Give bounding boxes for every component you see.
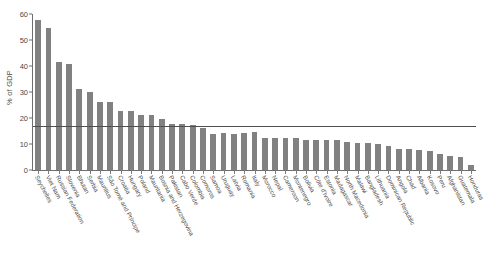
y-tick-label: 60: [20, 10, 28, 19]
bar: [344, 142, 350, 170]
plot-area: [33, 14, 476, 170]
bar: [303, 140, 309, 170]
bar: [313, 140, 319, 170]
bar: [46, 28, 52, 170]
bar: [138, 115, 144, 170]
bar: [375, 144, 381, 170]
bar: [35, 20, 41, 170]
x-axis-category-labels: SeychellesViet NamRussian FederationSlov…: [33, 174, 480, 253]
bar: [149, 115, 155, 170]
bar-series: [33, 14, 476, 170]
bar: [416, 150, 422, 170]
bar: [128, 111, 134, 170]
y-tick-label: 0: [24, 166, 28, 175]
bar: [169, 124, 175, 170]
bar: [324, 140, 330, 170]
bar: [107, 102, 113, 170]
bar: [179, 124, 185, 170]
bar: [396, 149, 402, 170]
bar: [66, 64, 72, 170]
bar: [334, 140, 340, 170]
reference-line: [33, 126, 476, 127]
y-tick-label: 30: [20, 88, 28, 97]
bar: [437, 154, 443, 170]
bar: [190, 125, 196, 171]
bar: [406, 149, 412, 170]
bar: [221, 133, 227, 170]
bar: [210, 134, 216, 170]
bar: [262, 138, 268, 170]
bar: [293, 138, 299, 171]
bar: [200, 128, 206, 170]
bar: [272, 138, 278, 170]
bar: [458, 157, 464, 170]
bar: [447, 156, 453, 170]
y-tick-label: 20: [20, 114, 28, 123]
y-axis-label-text: % of GDP: [5, 70, 14, 105]
bar: [241, 133, 247, 170]
bar: [283, 138, 289, 170]
bar: [118, 111, 124, 170]
bar: [355, 143, 361, 170]
bar: [231, 134, 237, 170]
bar: [252, 132, 258, 170]
y-tick-label: 10: [20, 140, 28, 149]
y-tick-label: 40: [20, 62, 28, 71]
y-tick-label: 50: [20, 36, 28, 45]
bar: [427, 151, 433, 170]
bar: [365, 143, 371, 170]
y-axis-tick-labels: 0102030405060: [14, 0, 32, 175]
bar: [56, 62, 62, 170]
bar: [97, 102, 103, 170]
bar: [87, 92, 93, 170]
bar: [76, 89, 82, 170]
bar: [386, 146, 392, 170]
